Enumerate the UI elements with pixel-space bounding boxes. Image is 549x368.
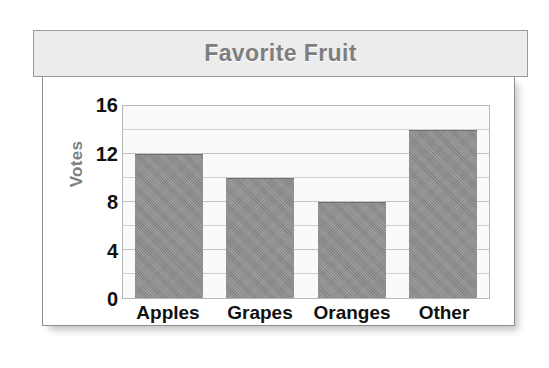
- x-axis-tick-label: Other: [402, 302, 486, 324]
- page-title: Favorite Fruit: [204, 40, 357, 67]
- chart-title-band: Favorite Fruit: [33, 30, 528, 77]
- bar-other: [409, 130, 477, 298]
- y-axis-tick-labels: 0481216: [86, 105, 118, 299]
- y-axis-tick-label: 8: [107, 192, 118, 212]
- y-axis-tick-label: 16: [96, 95, 118, 115]
- x-axis-tick-label: Apples: [126, 302, 210, 324]
- y-axis-tick-label: 0: [107, 289, 118, 309]
- y-axis-label: Votes: [67, 119, 87, 209]
- x-axis-tick-label: Oranges: [310, 302, 394, 324]
- bar-grapes: [226, 178, 294, 298]
- x-axis-tick-labels: ApplesGrapesOrangesOther: [122, 302, 490, 324]
- bar-oranges: [318, 202, 386, 298]
- y-axis-tick-label: 12: [96, 144, 118, 164]
- bar-chart: Votes 0481216 ApplesGrapesOrangesOther: [42, 76, 515, 326]
- bar-apples: [135, 154, 203, 298]
- plot-area: [122, 105, 490, 299]
- bar-series: [123, 106, 489, 298]
- y-axis-tick-label: 4: [107, 241, 118, 261]
- x-axis-tick-label: Grapes: [218, 302, 302, 324]
- chart-figure: Favorite Fruit Votes 0481216 ApplesGrape…: [0, 0, 549, 368]
